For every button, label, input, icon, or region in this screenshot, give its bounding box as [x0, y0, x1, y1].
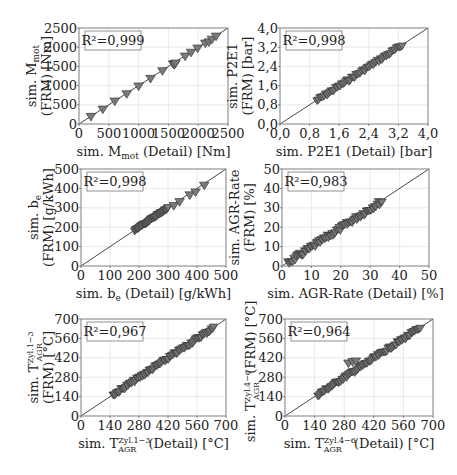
scatter-panel-m_mot: 0500100015002000250005001000150020002500…	[24, 21, 245, 162]
x-axis-label: sim. TZyl.4−6AGR (Detail) [°C]	[284, 436, 435, 454]
y-tick-label: 0,8	[257, 97, 278, 112]
x-tick-label: 200	[127, 268, 152, 283]
x-tick-label: 100	[98, 268, 123, 283]
y-tick-label: 30	[263, 200, 280, 215]
x-tick-label: 1000	[122, 126, 155, 141]
y-tick-label: 50	[263, 162, 280, 177]
scatter-panel-b_e: 01002003004005000100200300400500R²=0,998…	[26, 162, 238, 304]
scatter-panel-t_agr_zyl4_6: 01402804205607000140280420560700R²=0,964…	[243, 301, 445, 454]
x-tick-label: 280	[127, 418, 152, 433]
y-tick-label: 10	[263, 239, 280, 254]
x-tick-label: 420	[156, 418, 181, 433]
x-tick-label: 4,0	[418, 126, 439, 141]
y-tick-label: 0	[69, 117, 77, 132]
y-axis-label-line2: (FRM) [Nm]	[39, 36, 54, 116]
y-tick-label: 280	[54, 370, 79, 385]
y-axis-label: sim. P2E1	[225, 43, 240, 109]
x-tick-label: 3,2	[388, 126, 409, 141]
r2-value: R²=0,998	[282, 33, 345, 48]
scatter-panel-t_agr_zyl1_3: 01402804205607000140280420560700R²=0,967…	[26, 312, 238, 455]
x-tick-label: 2,4	[358, 126, 379, 141]
x-axis-label: sim. Mmot (Detail) [Nm]	[77, 144, 231, 161]
y-tick-label: 140	[258, 389, 283, 404]
y-tick-label: 280	[258, 370, 283, 385]
x-axis-label: sim. be (Detail) [g/kWh]	[76, 286, 231, 303]
figure-canvas: 0500100015002000250005001000150020002500…	[0, 0, 457, 475]
r2-value: R²=0,967	[83, 324, 146, 339]
x-tick-label: 1,6	[329, 126, 350, 141]
x-tick-label: 700	[421, 418, 446, 433]
y-tick-label: 0,0	[257, 117, 278, 132]
x-tick-label: 50	[421, 268, 438, 283]
scatter-panel-p2e1: 0,00,81,62,43,24,00,00,81,62,43,24,0R²=0…	[225, 21, 438, 160]
y-tick-label: 500	[54, 162, 79, 177]
y-tick-label: 2500	[44, 21, 77, 36]
y-tick-label: 0	[272, 259, 280, 274]
y-tick-label: 0	[71, 409, 79, 424]
x-tick-label: 30	[362, 268, 379, 283]
y-tick-label: 200	[54, 220, 79, 235]
x-tick-label: 500	[96, 126, 121, 141]
y-tick-label: 500	[52, 97, 77, 112]
x-tick-label: 40	[391, 268, 408, 283]
scatter-panel-agr_rate: 0102030405001020304050R²=0,983sim. AGR-R…	[227, 162, 444, 302]
y-tick-label: 3,2	[257, 40, 278, 55]
x-tick-label: 20	[333, 268, 350, 283]
y-tick-label: 420	[258, 350, 283, 365]
x-tick-label: 280	[332, 418, 357, 433]
x-tick-label: 140	[98, 418, 123, 433]
r2-value: R²=0,998	[83, 174, 146, 189]
y-tick-label: 140	[54, 389, 79, 404]
y-axis-label-line2: (FRM) [%]	[242, 183, 257, 252]
y-tick-label: 2,4	[257, 59, 278, 74]
y-tick-label: 560	[54, 331, 79, 346]
x-axis-label: sim. TZyl.1−3AGR (Detail) [°C]	[78, 436, 229, 454]
x-axis-label: sim. AGR-Rate (Detail) [%]	[267, 286, 443, 301]
y-tick-label: 0	[71, 259, 79, 274]
y-tick-label: 300	[54, 200, 79, 215]
x-tick-label: 2500	[211, 126, 244, 141]
y-axis-label-line2: (FRM) [bar]	[240, 37, 255, 116]
r2-value: R²=0,964	[287, 324, 350, 339]
y-tick-label: 40	[263, 181, 280, 196]
x-tick-label: 0,8	[299, 126, 320, 141]
y-axis-label: sim. AGR-Rate	[227, 169, 242, 265]
x-tick-label: 560	[185, 418, 210, 433]
y-tick-label: 20	[263, 220, 280, 235]
x-tick-label: 700	[214, 418, 239, 433]
x-tick-label: 560	[391, 418, 416, 433]
r2-value: R²=0,999	[81, 33, 144, 48]
y-tick-label: 420	[54, 350, 79, 365]
y-tick-label: 0	[275, 409, 283, 424]
x-tick-label: 140	[302, 418, 327, 433]
r2-value: R²=0,983	[284, 174, 347, 189]
x-tick-label: 420	[361, 418, 386, 433]
y-axis-label-line2: (FRM) [g/kWh]	[41, 168, 56, 267]
y-tick-label: 700	[258, 312, 283, 327]
x-axis-label: sim. P2E1 (Detail) [bar]	[276, 144, 432, 159]
x-tick-label: 10	[303, 268, 320, 283]
x-tick-label: 1500	[152, 126, 185, 141]
y-axis-label-line2: (FRM) [°C]	[41, 331, 56, 404]
x-tick-label: 500	[214, 268, 239, 283]
y-tick-label: 700	[54, 312, 79, 327]
y-tick-label: 400	[54, 181, 79, 196]
y-tick-label: 1,6	[257, 78, 278, 93]
y-tick-label: 100	[54, 239, 79, 254]
x-tick-label: 2000	[182, 126, 215, 141]
x-tick-label: 300	[156, 268, 181, 283]
x-tick-label: 400	[185, 268, 210, 283]
y-tick-label: 560	[258, 331, 283, 346]
y-tick-label: 4,0	[257, 21, 278, 36]
